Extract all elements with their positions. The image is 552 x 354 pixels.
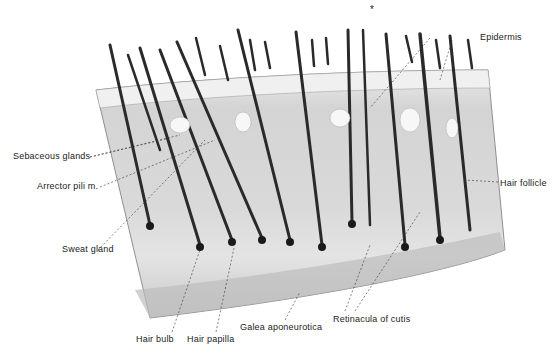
skin-section-illustration <box>0 0 552 354</box>
label-hair-papilla: Hair papilla <box>187 334 234 344</box>
label-sebaceous-glands: Sebaceous glands <box>13 151 90 161</box>
label-galea-aponeurotica: Galea aponeurotica <box>240 322 322 332</box>
star-marker: * <box>370 4 374 15</box>
label-sweat-gland: Sweat gland <box>62 244 114 254</box>
label-epidermis: Epidermis <box>480 32 522 42</box>
label-hair-follicle: Hair follicle <box>500 178 547 188</box>
label-hair-bulb: Hair bulb <box>136 334 174 344</box>
label-retinacula-cutis: Retinacula of cutis <box>333 314 410 324</box>
label-arrector-pili: Arrector pili m. <box>37 181 98 191</box>
